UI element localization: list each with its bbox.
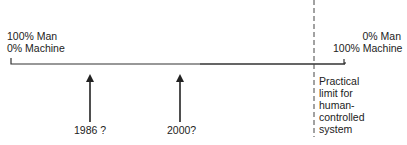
right-end-line2: 100% Machine bbox=[333, 42, 401, 54]
left-end-label: 100% Man 0% Machine bbox=[7, 30, 65, 54]
limit-label-line: human- bbox=[319, 99, 365, 111]
limit-label-line: limit for bbox=[319, 87, 365, 99]
right-end-line1: 0% Man bbox=[333, 30, 401, 42]
left-end-line1: 100% Man bbox=[7, 30, 65, 42]
arrow-2000 bbox=[176, 74, 184, 122]
limit-label-line: system bbox=[319, 123, 365, 135]
left-end-line2: 0% Machine bbox=[7, 42, 65, 54]
scale-line bbox=[11, 58, 345, 64]
practical-limit-label: Practical limit for human- controlled sy… bbox=[319, 75, 365, 135]
right-end-label: 0% Man 100% Machine bbox=[333, 30, 401, 54]
marker-2000-label: 2000? bbox=[167, 124, 196, 136]
marker-1986-label: 1986 ? bbox=[74, 124, 106, 136]
limit-label-line: controlled bbox=[319, 111, 365, 123]
limit-label-line: Practical bbox=[319, 75, 365, 87]
arrow-1986 bbox=[86, 74, 94, 122]
